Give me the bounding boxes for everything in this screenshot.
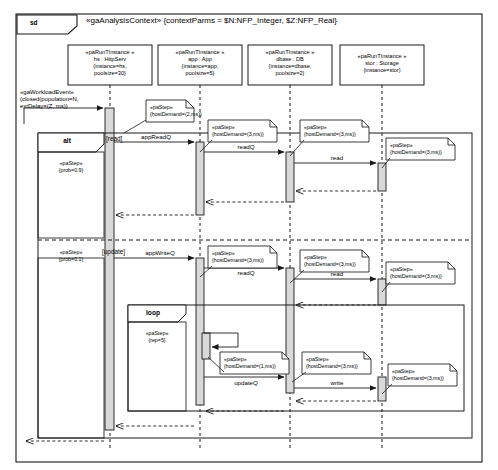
lifeline-dbase-instance: dbase : DB xyxy=(248,56,332,63)
lifeline-dbase-stereotype: «paRunTInstance » xyxy=(248,49,332,56)
note-prob01-stereotype: «paStep» xyxy=(38,249,104,255)
note-read-app-stereotype: «paStep» xyxy=(212,124,235,130)
note-update-stor-stereotype: «paStep» xyxy=(390,266,413,272)
note-loop-app-value: {hostDemand=(1,ms)} xyxy=(224,363,276,369)
note-read-dbase-stereotype: «paStep» xyxy=(304,124,327,130)
frame-title: «gaAnalysisContext» {contextParms = $N:N… xyxy=(86,17,337,25)
lifeline-dbase-prop2: poolsize=2} xyxy=(248,70,332,77)
message-appWriteQ: appWriteQ xyxy=(122,249,198,257)
note-prob09-stereotype: «paStep» xyxy=(38,160,104,166)
note-write-stor-value: {hostDemand=(3,ms)} xyxy=(392,375,444,381)
note-read-app-value: {hostDemand=(3,ms)} xyxy=(212,131,264,137)
note-rep5-stereotype: «paStep» xyxy=(128,330,186,336)
lifeline-stor-stereotype: «paRunTInstance » xyxy=(340,53,424,60)
lifeline-stor-instance: stor : Storage xyxy=(340,60,424,67)
note-update-dbase-value: {hostDemand=(3,ms)} xyxy=(304,261,356,267)
sequence-diagram-canvas: sd «gaAnalysisContext» {contextParms = $… xyxy=(0,0,498,470)
lifeline-hs-prop2: poolsize=30} xyxy=(68,70,152,77)
note-update-app-stereotype: «paStep» xyxy=(212,250,235,256)
note-loop-app-stereotype: «paStep» xyxy=(224,356,247,362)
note-read-dbase-value: {hostDemand=(3,ms)} xyxy=(304,131,356,137)
frame-kind-tag: sd xyxy=(30,19,38,27)
note-update-app-value: {hostDemand=(3,ms)} xyxy=(212,257,264,263)
note-read-stor-stereotype: «paStep» xyxy=(390,142,413,148)
lifeline-app-instance: app : App xyxy=(158,56,242,63)
note-write-dbase-value: {hostDemand=(3,ms)} xyxy=(306,363,358,369)
lifeline-stor-prop1: {instance=stor) xyxy=(340,67,424,74)
lifeline-app-prop2: poolsize=5} xyxy=(158,70,242,77)
note-rep5-value: {rep=5} xyxy=(128,337,186,343)
lifeline-app-stereotype: «paRunTInstance » xyxy=(158,49,242,56)
loop-fragment-label: loop xyxy=(128,309,178,317)
message-appReadQ: appReadQ xyxy=(118,133,194,141)
message-updateQ: updateQ xyxy=(208,379,284,387)
message-readQ-1: readQ xyxy=(208,143,284,151)
lifeline-hs-prop1: {instance=hs, xyxy=(68,63,152,70)
message-read-2: read xyxy=(300,270,374,278)
note-write-dbase-stereotype: «paStep» xyxy=(306,356,329,362)
lifeline-dbase-prop1: {instance=dbase, xyxy=(248,63,332,70)
note-update-stor-value: {hostDemand=(3,ms)} xyxy=(390,273,442,279)
note-entry-stereotype: «paStep» xyxy=(150,104,173,110)
message-readQ-2: readQ xyxy=(208,269,284,277)
alt-fragment-label: alt xyxy=(38,137,96,145)
note-update-dbase-stereotype: «paStep» xyxy=(304,254,327,260)
workload-event-line3: extDelay=(Z, ms)} xyxy=(20,103,68,111)
note-entry-value: {hostDemand=(2,ms)} xyxy=(150,111,202,117)
note-read-stor-value: {hostDemand=(3,ms)} xyxy=(390,149,442,155)
lifeline-hs-stereotype: «paRunTInstance » xyxy=(68,49,152,56)
lifeline-hs-instance: hs : HttpServ xyxy=(68,56,152,63)
message-write: write xyxy=(300,379,374,387)
note-prob01-value: {prob=0.1} xyxy=(38,256,104,262)
lifeline-app-prop1: {instance=app, xyxy=(158,63,242,70)
note-write-stor-stereotype: «paStep» xyxy=(392,368,415,374)
message-read: read xyxy=(300,154,374,162)
note-prob09-value: {prob=0.9} xyxy=(38,167,104,173)
